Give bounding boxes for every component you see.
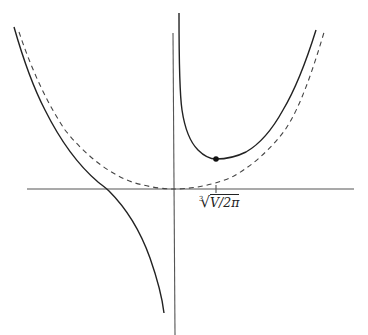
left-branch-curve [14, 27, 164, 313]
function-plot [0, 0, 368, 335]
radical-index: 3 [199, 195, 203, 203]
dashed-parabola [19, 29, 325, 189]
radicand: V/2π [210, 194, 239, 210]
y-axis [173, 33, 175, 335]
minimum-point-marker [213, 156, 219, 162]
right-branch-curve [179, 13, 316, 159]
tick-label-cube-root: 3√V/2π [199, 193, 239, 211]
